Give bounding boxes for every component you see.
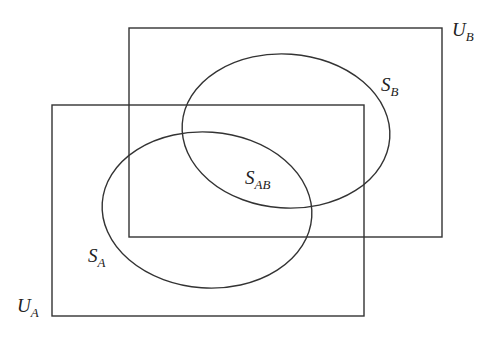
universe-b-rectangle <box>129 28 442 237</box>
intersection-label: SAB <box>245 167 270 192</box>
universe-b-label-subscript: B <box>466 29 474 44</box>
intersection-label-subscript: AB <box>254 177 271 192</box>
universe-a-rectangle <box>52 105 364 316</box>
universe-b-label: UB <box>452 19 474 44</box>
set-b-label: SB <box>381 74 399 99</box>
set-a-label-main: S <box>88 245 98 266</box>
set-a-ellipse <box>97 125 317 295</box>
universe-a-label-subscript: A <box>30 305 39 320</box>
set-b-label-main: S <box>381 74 391 95</box>
set-b-label-subscript: B <box>391 84 399 99</box>
intersection-label-main: S <box>245 167 255 188</box>
set-a-label-subscript: A <box>97 255 106 270</box>
set-b-ellipse <box>177 47 395 215</box>
venn-diagram: UB UA SB SA SAB <box>0 0 498 337</box>
universe-a-label: UA <box>17 295 39 320</box>
set-a-label: SA <box>88 245 106 270</box>
